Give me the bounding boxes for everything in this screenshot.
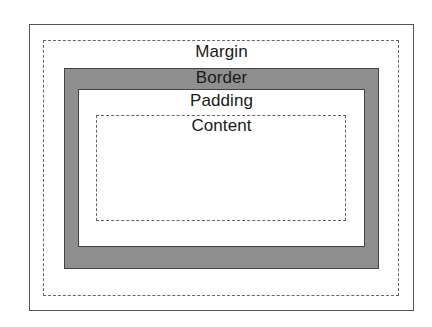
content-label: Content	[64, 116, 379, 136]
padding-label: Padding	[64, 91, 379, 111]
border-label: Border	[64, 68, 379, 88]
margin-label: Margin	[64, 42, 379, 62]
